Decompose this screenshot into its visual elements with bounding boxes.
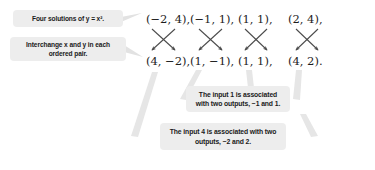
swap-arrows-column-4	[296, 29, 318, 50]
swap-arrows-column-2	[199, 29, 222, 50]
label-interchange-x-y: Interchange x and y in each ordered pair…	[10, 37, 126, 61]
swap-arrows	[152, 29, 318, 50]
label-interchange-x-y-text: Interchange x and y in each ordered pair…	[15, 40, 121, 58]
ordered-pair-bottom-2: (1, −1),	[190, 54, 234, 68]
note-input-4-text: The input 4 is associated with two outpu…	[166, 127, 280, 146]
ordered-pair-top-3: (1, 1),	[238, 12, 273, 26]
ordered-pair-top-2: (−1, 1),	[190, 12, 234, 26]
note-input-1-text: The input 1 is associated with two outpu…	[192, 90, 284, 109]
ordered-pair-top-4: (2, 4),	[288, 12, 323, 26]
ordered-pair-bottom-4: (4, 2).	[288, 54, 323, 68]
ordered-pair-top-1: (−2, 4),	[146, 12, 190, 26]
note-input-4: The input 4 is associated with two outpu…	[160, 123, 286, 150]
swap-arrows-column-1	[152, 29, 175, 50]
swap-arrows-column-3	[245, 29, 267, 50]
label-four-solutions-text: Four solutions of y = x².	[32, 14, 104, 23]
note-input-1: The input 1 is associated with two outpu…	[186, 86, 290, 112]
label-four-solutions: Four solutions of y = x².	[13, 10, 123, 27]
ordered-pair-bottom-3: (1, 1),	[238, 54, 273, 68]
ordered-pair-bottom-1: (4, −2),	[146, 54, 190, 68]
